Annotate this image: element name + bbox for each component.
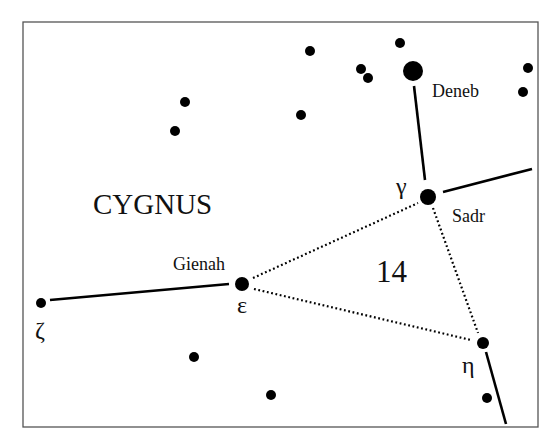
star-deneb [403,61,423,81]
star-name-deneb: Deneb [432,81,479,101]
star-sadr-gamma [420,189,436,205]
greek-label-gamma: γ [395,173,407,199]
greek-label-epsilon: ε [237,292,247,318]
cygnus-star-chart: CYGNUS 14 Deneb Sadr Gienah γ ε ζ η [0,0,558,447]
area-number-label: 14 [376,254,408,289]
star-field-star-2 [395,38,405,48]
star-field-star-1 [305,46,315,56]
star-name-sadr: Sadr [452,206,485,226]
greek-label-zeta: ζ [35,317,45,343]
star-gienah-epsilon [235,277,249,291]
greek-label-eta: η [462,352,475,378]
star-field-star-10 [189,352,199,362]
star-field-star-4 [363,73,373,83]
star-field-star-9 [296,110,306,120]
star-field-star-7 [180,97,190,107]
star-eta [477,337,489,349]
star-field-star-8 [170,126,180,136]
constellation-title: CYGNUS [93,188,212,220]
star-field-star-6 [518,87,528,97]
star-field-star-3 [356,64,366,74]
star-field-star-5 [523,63,533,73]
star-zeta [36,298,46,308]
star-field-star-12 [482,393,492,403]
star-name-gienah: Gienah [173,254,225,274]
star-field-star-11 [266,390,276,400]
